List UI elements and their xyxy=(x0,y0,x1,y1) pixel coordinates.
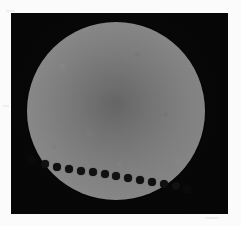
venus-transit-dot-2 xyxy=(53,163,61,171)
venus-transit-dot-8 xyxy=(124,174,132,182)
venus-transit-dot-3 xyxy=(65,165,73,173)
venus-transit-dot-12 xyxy=(172,182,180,190)
egress-notch xyxy=(182,184,192,194)
venus-transit-dot-5 xyxy=(89,168,97,176)
ingress-notch xyxy=(27,155,36,164)
venus-transit-dot-4 xyxy=(77,167,85,175)
venus-transit-dot-11 xyxy=(160,180,168,188)
venus-transit-dot-9 xyxy=(136,176,144,184)
venus-transit-dot-7 xyxy=(112,172,120,180)
scan-artifact-bottom-right xyxy=(205,217,219,219)
venus-transit-path xyxy=(11,13,228,214)
night-sky-frame xyxy=(11,13,228,214)
scan-artifact-top-left xyxy=(6,10,15,12)
scan-artifact-mid-left xyxy=(3,105,9,107)
venus-transit-dot-6 xyxy=(101,170,109,178)
venus-transit-dot-10 xyxy=(148,178,156,186)
venus-transit-photo xyxy=(0,0,241,226)
venus-transit-dot-1 xyxy=(41,160,49,168)
